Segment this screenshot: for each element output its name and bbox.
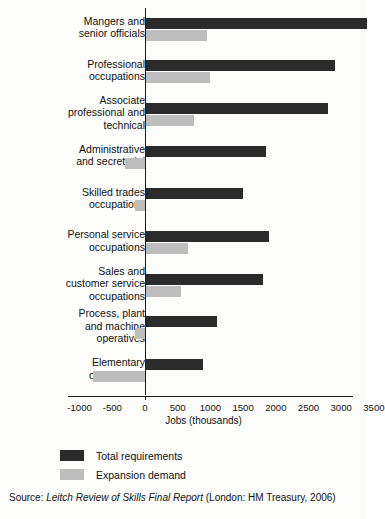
legend-swatch-total-requirements	[60, 450, 84, 461]
category-label: Sales and customer service occupations	[10, 265, 145, 302]
bar-expansion-demand	[145, 243, 188, 254]
x-axis-line	[68, 396, 353, 397]
bar-expansion-demand	[145, 286, 181, 297]
bar-expansion-demand	[145, 72, 210, 83]
x-axis-title-text: Jobs (thousands)	[165, 415, 242, 426]
value-axis-zero-line	[145, 8, 146, 395]
bar-total-requirements	[145, 359, 203, 370]
chart-category-group: Sales and customer service occupations	[0, 264, 367, 307]
chart-category-group: Professional occupations	[0, 51, 367, 94]
x-tick-label: 500	[170, 401, 186, 414]
category-label: Process, plant and machine operatives	[10, 307, 145, 344]
source-prefix: Source:	[9, 492, 46, 503]
x-tick-label: 3500	[363, 401, 384, 414]
chart-category-group: Associate professional and technical	[0, 93, 367, 136]
plot-area: Mangers and senior officialsProfessional…	[0, 8, 367, 392]
x-axis-zero-tick	[145, 396, 146, 400]
bar-total-requirements	[145, 274, 263, 285]
x-tick-label: -1000	[67, 401, 92, 414]
bar-expansion-demand	[125, 158, 145, 169]
chart-category-group: Elementary occupations	[0, 349, 367, 392]
chart-category-group: Personal service occupations	[0, 221, 367, 264]
bar-total-requirements	[145, 60, 335, 71]
bar-expansion-demand	[145, 115, 194, 126]
legend-label-expansion-demand: Expansion demand	[96, 469, 186, 481]
legend-swatch-expansion-demand	[60, 469, 84, 480]
bar-total-requirements	[145, 18, 367, 29]
x-axis-title: Jobs (thousands)	[0, 415, 367, 426]
bar-expansion-demand	[135, 200, 145, 211]
chart-category-group: Skilled trades occupations	[0, 179, 367, 222]
bar-total-requirements	[145, 103, 328, 114]
bar-expansion-demand	[135, 328, 145, 339]
source-title: Leitch Review of Skills Final Report	[46, 492, 203, 503]
bar-total-requirements	[145, 316, 217, 327]
chart-legend: Total requirements Expansion demand	[60, 446, 360, 484]
x-tick-label: 2000	[265, 401, 286, 414]
x-tick-label: 1500	[232, 401, 253, 414]
source-note: Source: Leitch Review of Skills Final Re…	[9, 491, 364, 504]
category-label: Professional occupations	[10, 58, 145, 83]
category-label: Personal service occupations	[10, 228, 145, 253]
x-tick-label: -500	[103, 401, 122, 414]
bar-total-requirements	[145, 146, 266, 157]
x-tick-label: 2500	[298, 401, 319, 414]
chart-category-group: Process, plant and machine operatives	[0, 307, 367, 350]
chart-category-group: Administrative and secretarial	[0, 136, 367, 179]
x-tick-label: 1000	[200, 401, 221, 414]
legend-label-total-requirements: Total requirements	[96, 450, 182, 462]
category-label: Skilled trades occupations	[10, 186, 145, 211]
bar-expansion-demand	[93, 371, 145, 382]
source-suffix: (London: HM Treasury, 2006)	[203, 492, 336, 503]
bar-expansion-demand	[145, 30, 207, 41]
bar-total-requirements	[145, 188, 243, 199]
x-tick-label: 3000	[331, 401, 352, 414]
bar-total-requirements	[145, 231, 269, 242]
legend-item-total-requirements: Total requirements	[60, 446, 360, 465]
category-label: Mangers and senior officials	[10, 15, 145, 40]
legend-item-expansion-demand: Expansion demand	[60, 465, 360, 484]
chart-category-group: Mangers and senior officials	[0, 8, 367, 51]
x-axis-tick-labels: -1000-5000500100015002000250030003500	[0, 401, 367, 415]
x-tick-label: 0	[142, 401, 147, 414]
category-label: Associate professional and technical	[10, 94, 145, 131]
